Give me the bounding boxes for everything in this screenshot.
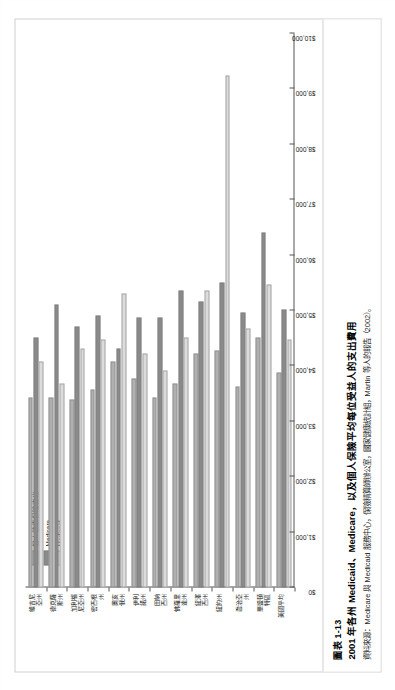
bar-medicare (178, 290, 183, 587)
bar-個人健康保險支出 (214, 351, 219, 588)
axis-tick-label: $7,000 (295, 200, 315, 207)
bar-medicaid (59, 384, 64, 588)
scanned-page: 個人健康保險支出MedicareMedicaid $0$1,000$2,000$… (0, 0, 395, 690)
plot-region: 個人健康保險支出MedicareMedicaid $0$1,000$2,000$… (25, 29, 320, 661)
bar-medicare (136, 318, 141, 588)
axis-tick (289, 531, 294, 532)
bar-medicare (157, 318, 162, 588)
bar-group (66, 37, 87, 587)
axis-tick (289, 309, 294, 310)
figure-number: 圖表 1-13 (330, 31, 343, 659)
axis-tick (289, 198, 294, 199)
bar-medicaid (121, 293, 126, 587)
bar-個人健康保險支出 (90, 389, 95, 587)
bar-medicaid (38, 362, 43, 588)
bar-medicaid (183, 337, 188, 587)
category-tick (273, 587, 274, 591)
category-label: 密西根 州 (90, 593, 104, 661)
axis-tick-label: $4,000 (295, 366, 315, 373)
bar-group (46, 37, 67, 587)
category-label: 加利福 尼亞州 (70, 593, 84, 661)
bar-medicare (74, 326, 79, 587)
bar-medicaid (225, 76, 230, 588)
bars-container (25, 33, 294, 587)
bar-group (128, 37, 149, 587)
bar-group (108, 37, 129, 587)
bar-medicare (240, 312, 245, 587)
category-tick (46, 587, 47, 591)
figure-source: 資料來源：Medicare 與 Medicaid 服務中心，保險精算師辦公室，國… (362, 31, 372, 659)
bar-medicaid (204, 290, 209, 587)
category-tick (253, 587, 254, 591)
bar-個人健康保險支出 (276, 373, 281, 588)
category-label: 紐澤 西州 (194, 593, 208, 661)
category-label: 佛羅里 達州 (173, 593, 187, 661)
bar-group (273, 37, 294, 587)
axis-tick (289, 364, 294, 365)
category-label: 田納 西州 (153, 593, 167, 661)
figure-caption-block: 圖表 1-13 2001 年各州 Medicaid、Medicare，以及個人保… (322, 19, 380, 671)
bar-group (191, 37, 212, 587)
category-label: 伊利 諾州 (132, 593, 146, 661)
axis-tick-label: $6,000 (295, 256, 315, 263)
bar-group (87, 37, 108, 587)
bar-group (25, 37, 46, 587)
axis-tick-label: $0 (308, 588, 315, 595)
axis-tick-label: $8,000 (295, 145, 315, 152)
axis-tick-label: $5,000 (295, 311, 315, 318)
axis-tick (289, 254, 294, 255)
bar-個人健康保險支出 (28, 397, 33, 587)
category-tick (211, 587, 212, 591)
category-label: 紐約州 (215, 593, 222, 661)
category-tick (108, 587, 109, 591)
chart-area: 個人健康保險支出MedicareMedicaid $0$1,000$2,000$… (15, 19, 322, 671)
figure-title: 2001 年各州 Medicaid、Medicare，以及個人保險平均每位受益人… (345, 31, 357, 659)
bar-medicare (261, 232, 266, 587)
axis-tick-label: $10,000 (292, 34, 316, 41)
bar-medicare (95, 315, 100, 587)
category-tick (170, 587, 171, 591)
bar-medicaid (162, 370, 167, 587)
bar-medicaid (100, 340, 105, 588)
axis-tick (289, 32, 294, 33)
bar-個人健康保險支出 (48, 397, 53, 587)
category-label: 奧亥 俄州 (111, 593, 125, 661)
axis-tick (289, 420, 294, 421)
category-tick (128, 587, 129, 591)
category-label: 華盛頓 特區 (256, 593, 270, 661)
axis-tick (289, 87, 294, 88)
axis-tick-label: $3,000 (295, 422, 315, 429)
category-label: 維吉尼 亞州 (28, 593, 42, 661)
bar-medicare (33, 337, 38, 587)
bar-group (232, 37, 253, 587)
category-label: 德克薩 斯州 (49, 593, 63, 661)
category-tick (191, 587, 192, 591)
bar-medicaid (142, 353, 147, 587)
category-tick (66, 587, 67, 591)
bar-個人健康保險支出 (110, 362, 115, 588)
bar-medicare (54, 304, 59, 587)
bar-個人健康保險支出 (131, 378, 136, 587)
bar-medicare (219, 282, 224, 587)
bar-個人健康保險支出 (193, 353, 198, 587)
bar-medicaid (80, 348, 85, 587)
category-tick (232, 587, 233, 591)
category-label: 美國平均 (277, 593, 284, 661)
bar-group (170, 37, 191, 587)
bar-medicare (198, 301, 203, 587)
bar-個人健康保險支出 (69, 399, 74, 587)
axis-tick-label: $9,000 (295, 89, 315, 96)
category-label: 喬治亞 州 (235, 593, 249, 661)
bar-個人健康保險支出 (152, 397, 157, 587)
bar-個人健康保險支出 (235, 386, 240, 587)
bar-medicare (281, 309, 286, 587)
category-tick (87, 587, 88, 591)
axis-tick-label: $2,000 (295, 477, 315, 484)
category-tick (294, 587, 295, 591)
bar-medicaid (266, 285, 271, 588)
category-tick (149, 587, 150, 591)
axis-tick (289, 143, 294, 144)
bar-medicaid (287, 340, 292, 588)
figure-sheet: 個人健康保險支出MedicareMedicaid $0$1,000$2,000$… (14, 18, 381, 672)
bar-個人健康保險支出 (172, 384, 177, 588)
